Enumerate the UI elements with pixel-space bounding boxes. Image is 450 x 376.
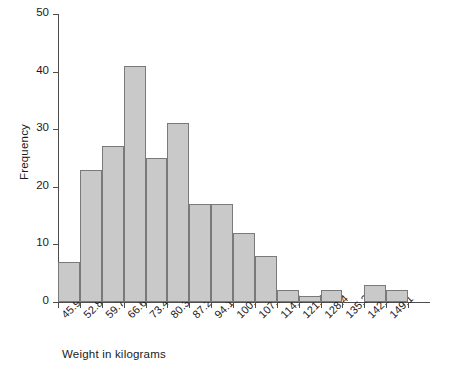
y-tick-label: 10 <box>36 236 49 248</box>
x-tick-mark <box>255 303 256 308</box>
y-tick-mark <box>53 187 58 188</box>
y-tick-mark <box>53 72 58 73</box>
x-tick-mark <box>80 303 81 308</box>
histogram-figure: Frequency 01020304050 45.952.859.766.673… <box>0 0 450 376</box>
histogram-bar <box>277 290 299 302</box>
y-tick-label: 30 <box>36 121 49 133</box>
x-tick-mark <box>102 303 103 308</box>
y-tick-label: 20 <box>36 179 49 191</box>
histogram-bar <box>211 204 233 302</box>
x-axis-title: Weight in kilograms <box>62 348 166 360</box>
histogram-bar <box>167 123 189 302</box>
histogram-bar <box>299 296 321 302</box>
x-tick-mark <box>233 303 234 308</box>
y-tick-label: 0 <box>43 294 49 306</box>
x-tick-mark <box>146 303 147 308</box>
y-axis-title: Frequency <box>18 92 30 212</box>
y-tick-mark <box>53 129 58 130</box>
histogram-bar <box>80 170 102 302</box>
histogram-bar <box>189 204 211 302</box>
histogram-bar <box>364 285 386 302</box>
plot-area: 01020304050 45.952.859.766.673.480.387.2… <box>58 14 430 303</box>
y-axis-line <box>58 14 59 303</box>
x-tick-mark <box>58 303 59 308</box>
x-tick-mark <box>211 303 212 308</box>
x-tick-mark <box>364 303 365 308</box>
x-tick-mark <box>167 303 168 308</box>
histogram-bar <box>255 256 277 302</box>
y-tick-label: 40 <box>36 64 49 76</box>
histogram-bar <box>321 290 343 302</box>
histogram-bar <box>146 158 168 302</box>
x-tick-mark <box>299 303 300 308</box>
x-tick-mark <box>386 303 387 308</box>
histogram-bar <box>102 146 124 302</box>
x-tick-mark <box>342 303 343 308</box>
x-tick-mark <box>277 303 278 308</box>
x-tick-mark <box>189 303 190 308</box>
histogram-bar <box>58 262 80 302</box>
histogram-bar <box>124 66 146 302</box>
x-tick-mark <box>408 303 409 308</box>
histogram-bar <box>233 233 255 302</box>
x-tick-mark <box>321 303 322 308</box>
x-tick-mark <box>124 303 125 308</box>
y-tick-mark <box>53 14 58 15</box>
y-tick-mark <box>53 244 58 245</box>
histogram-bar <box>386 290 408 302</box>
y-tick-label: 50 <box>36 6 49 18</box>
